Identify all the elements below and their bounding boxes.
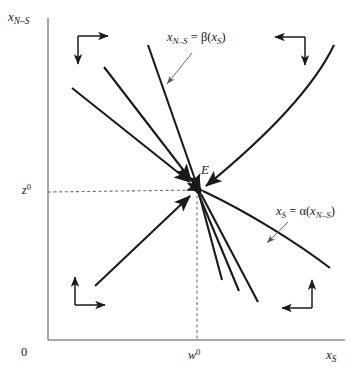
dashed-guides-group [48, 190, 197, 340]
traj-upper-left-steep [148, 45, 198, 188]
label-pointers-group [167, 53, 288, 243]
y-tick-label-z0: z0 [22, 183, 31, 196]
alpha-label-arg-sub: N–S [316, 210, 331, 220]
y-tick-superscript: 0 [27, 182, 31, 192]
traj-lower-right-2 [199, 195, 239, 291]
traj-lower-left-rising [95, 196, 190, 286]
diagram-canvas: xN–S xS 0 z0 w0 E xN–S = β(xS) xS = α(xN… [0, 0, 362, 381]
alpha-label-pointer [267, 222, 288, 243]
traj-alpha-right [203, 191, 330, 268]
beta-label-pointer [167, 53, 192, 84]
phase-diagram-svg [0, 0, 362, 381]
y-axis-label-subscript: N–S [14, 16, 30, 26]
quadrant-arrows-top-right [275, 37, 305, 65]
beta-label-eq: = [191, 30, 198, 44]
y-axis-label: xN–S [8, 10, 29, 26]
x-tick-superscript: 0 [196, 347, 200, 357]
horizontal-guide-z0 [48, 190, 197, 192]
x-axis-label-subscript: S [332, 354, 337, 364]
quadrant-arrows-bottom-right [282, 280, 312, 308]
beta-label-close: ) [221, 30, 225, 44]
quadrant-arrows-top-left [78, 36, 108, 64]
equilibrium-point-label: E [201, 163, 209, 176]
x-tick-label-w0: w0 [188, 348, 200, 361]
alpha-curve-label: xS = α(xN–S) [276, 205, 335, 220]
alpha-label-x-sub: S [282, 210, 287, 220]
x-tick-base: w [188, 348, 196, 362]
alpha-label-close: ) [331, 204, 335, 218]
beta-label-fn: β( [201, 30, 212, 44]
alpha-label-fn: α( [299, 204, 310, 218]
beta-curve-label: xN–S = β(xS) [167, 31, 226, 46]
traj-right-curve [206, 45, 334, 186]
alpha-label-eq: = [289, 204, 296, 218]
beta-label-x-sub: N–S [173, 36, 188, 46]
x-axis-label: xS [326, 348, 336, 364]
origin-label: 0 [21, 346, 27, 359]
traj-lower-right-1 [201, 194, 258, 302]
